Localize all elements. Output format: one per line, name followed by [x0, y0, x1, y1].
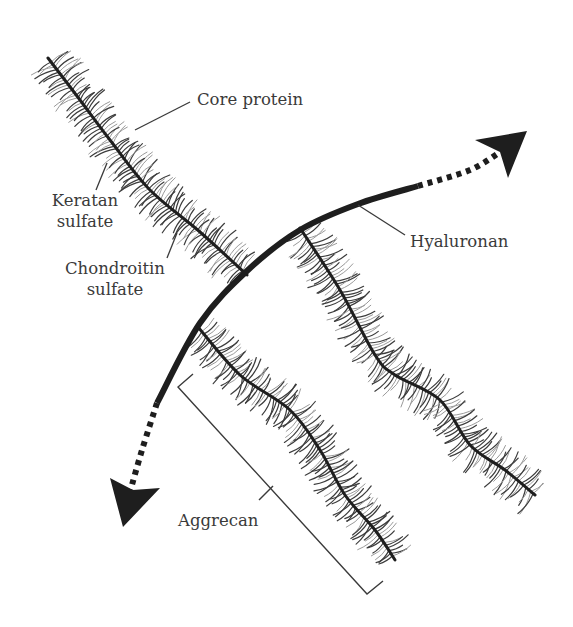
- label-hyaluronan: Hyaluronan: [410, 231, 508, 252]
- gag-chain: [442, 392, 464, 402]
- label-keratan-sulfate: Keratan sulfate: [40, 190, 130, 232]
- aggrecan-bracket: [178, 374, 383, 594]
- label-chondroitin-sulfate: Chondroitin sulfate: [56, 258, 174, 300]
- gag-chain: [415, 392, 426, 416]
- gag-chain: [113, 126, 125, 144]
- gag-chain: [225, 348, 241, 358]
- glycosaminoglycan-chains: [31, 51, 543, 564]
- gag-chain: [359, 346, 371, 355]
- gag-chain: [434, 410, 447, 418]
- gag-chain: [38, 62, 51, 72]
- gag-chain: [355, 311, 375, 317]
- gag-chain: [78, 85, 89, 98]
- gag-chain: [90, 102, 99, 113]
- gag-chain: [90, 146, 115, 157]
- gag-chain: [365, 532, 376, 541]
- chondroitin-line1: Chondroitin: [56, 258, 174, 279]
- arrowhead-bottom-icon: [110, 478, 160, 527]
- gag-chain: [200, 346, 214, 360]
- gag-chain: [309, 228, 324, 241]
- gag-chain: [366, 505, 380, 520]
- gag-chain: [438, 413, 449, 426]
- gag-chain: [290, 389, 301, 410]
- gag-chain: [492, 473, 508, 491]
- gag-chain: [390, 362, 402, 370]
- bracket-line: [178, 374, 383, 594]
- gag-chain: [208, 356, 223, 367]
- gag-chain: [336, 500, 350, 517]
- gag-chain: [130, 184, 145, 197]
- label-aggrecan: Aggrecan: [178, 510, 258, 531]
- gag-chain: [213, 331, 226, 344]
- gag-chain: [250, 391, 263, 411]
- bracket-tick: [259, 486, 273, 500]
- gag-chain: [168, 184, 179, 205]
- gag-chain: [196, 239, 208, 255]
- gag-chain: [67, 100, 80, 111]
- gag-chain: [466, 450, 478, 472]
- gag-chain: [319, 249, 343, 257]
- gag-chain: [46, 82, 66, 93]
- gag-chain: [339, 473, 358, 484]
- gag-chain: [480, 458, 488, 473]
- gag-chain: [337, 498, 347, 511]
- gag-chain: [341, 321, 356, 329]
- gag-chain: [296, 402, 316, 418]
- gag-chain: [363, 325, 380, 332]
- chondroitin-line2: sulfate: [56, 279, 174, 300]
- gag-chain: [269, 382, 284, 395]
- gag-chain: [325, 484, 340, 496]
- label-core-protein: Core protein: [197, 89, 303, 110]
- gag-chain: [329, 259, 349, 273]
- gag-chain: [368, 540, 382, 548]
- arrowhead-top-icon: [475, 131, 527, 178]
- gag-chain: [262, 397, 271, 415]
- gag-chain: [328, 459, 344, 465]
- gag-chain: [227, 375, 240, 385]
- gag-chain: [284, 425, 301, 442]
- gag-chain: [333, 503, 351, 515]
- gag-chain: [377, 346, 387, 356]
- gag-chain: [371, 545, 385, 556]
- keratan-line1: Keratan: [40, 190, 130, 211]
- gag-chain: [49, 77, 63, 87]
- gag-chain: [353, 349, 372, 362]
- keratan-line2: sulfate: [40, 211, 130, 232]
- gag-chain: [366, 331, 379, 337]
- gag-chain: [368, 361, 381, 382]
- gag-chain: [307, 230, 326, 238]
- gag-chain: [133, 158, 145, 168]
- gag-chain: [358, 503, 373, 510]
- gag-chain: [290, 438, 311, 453]
- gag-chain: [466, 447, 472, 460]
- chondroitin-sulfate-leader: [167, 233, 177, 258]
- gag-chain: [286, 420, 297, 432]
- hyaluronan-leader: [358, 205, 405, 235]
- keratan-sulfate-leader: [96, 163, 107, 190]
- hyaluronan-dotted-top: [418, 150, 503, 186]
- core-protein-leader: [135, 102, 190, 130]
- hyaluronan-dotted-bottom: [130, 403, 157, 492]
- gag-chain: [399, 380, 403, 399]
- gag-chain: [501, 479, 516, 494]
- gag-chain: [212, 258, 228, 275]
- gag-chain: [378, 522, 393, 535]
- gag-chain: [433, 408, 445, 416]
